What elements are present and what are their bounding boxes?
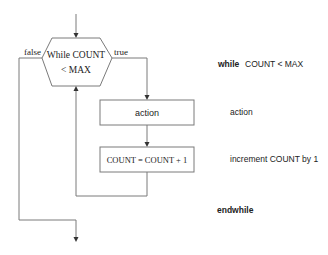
pseudocode-increment: increment COUNT by 1 xyxy=(230,154,318,164)
pseudocode-action: action xyxy=(230,107,253,117)
entry-arrow xyxy=(74,14,79,38)
true-label: true xyxy=(114,47,128,57)
decision-hexagon xyxy=(42,38,112,86)
pseudocode-endwhile-keyword: endwhile xyxy=(217,205,254,215)
pseudocode-while-condition: COUNT < MAX xyxy=(245,59,304,69)
while-loop-flowchart: While COUNT < MAX false true action COUN… xyxy=(0,0,328,255)
decision-text-line2: < MAX xyxy=(61,65,91,75)
action-to-increment-arrowhead xyxy=(145,142,150,147)
exit-arrowhead xyxy=(74,237,79,242)
true-branch-line xyxy=(112,58,147,96)
pseudocode-while-keyword: while xyxy=(217,59,240,69)
loop-back-arrowhead xyxy=(74,86,79,91)
decision-text-line1: While COUNT xyxy=(47,50,106,60)
increment-box-text: COUNT = COUNT + 1 xyxy=(107,155,188,165)
false-label: false xyxy=(24,47,41,57)
true-arrowhead xyxy=(145,95,150,100)
action-box-text: action xyxy=(135,108,159,118)
pseudocode: while COUNT < MAX action increment COUNT… xyxy=(217,59,318,215)
